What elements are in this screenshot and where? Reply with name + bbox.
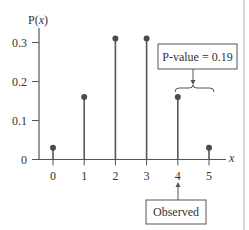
y-ticks: 00.10.20.3: [12, 36, 39, 167]
stem-dot: [81, 94, 87, 100]
observed-text: Observed: [153, 205, 199, 219]
stem-chart: P(x) x 00.10.20.3 012345 P-value = 0.19 …: [0, 0, 249, 230]
x-axis-label: x: [228, 151, 235, 165]
page-divider: [243, 0, 245, 230]
x-tick-label: 4: [175, 169, 181, 183]
pvalue-arrowhead-icon: [191, 80, 196, 85]
x-tick-label: 1: [81, 169, 87, 183]
stem-dot: [50, 145, 56, 151]
x-tick-label: 2: [112, 169, 118, 183]
stem-dot: [175, 94, 181, 100]
y-tick-label: 0.3: [12, 36, 27, 50]
pvalue-text: P-value = 0.19: [162, 50, 232, 64]
x-tick-label: 0: [50, 169, 56, 183]
y-axis-label: P(x): [28, 13, 48, 27]
y-tick-label: 0.1: [12, 114, 27, 128]
stem-dot: [112, 36, 118, 42]
observed-annotation: Observed: [146, 182, 206, 224]
pvalue-annotation: P-value = 0.19: [158, 44, 237, 92]
x-tick-label: 3: [144, 169, 150, 183]
stem-dot: [206, 145, 212, 151]
observed-arrowhead-icon: [176, 182, 181, 187]
chart-canvas: P(x) x 00.10.20.3 012345 P-value = 0.19 …: [0, 0, 249, 230]
x-ticks: 012345: [50, 160, 212, 183]
y-tick-label: 0.2: [12, 75, 27, 89]
x-tick-label: 5: [206, 169, 212, 183]
y-tick-label: 0: [21, 153, 27, 167]
stem-dot: [144, 36, 150, 42]
brace-icon: [175, 85, 214, 92]
